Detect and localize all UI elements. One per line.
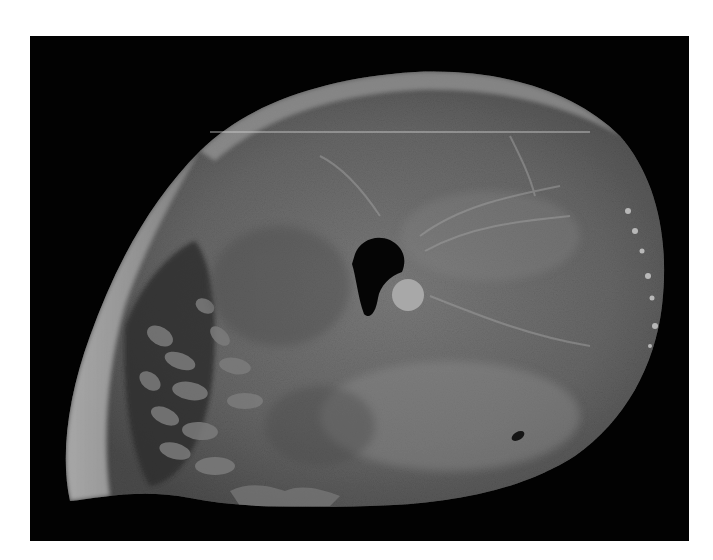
myocardium-dark-patch: [210, 226, 350, 346]
heart-cross-section-image: [30, 36, 689, 541]
specimen-photo: [30, 36, 689, 541]
papillary-muscle: [392, 279, 424, 311]
myocardium-light-patch: [400, 191, 580, 281]
myocardium-dark-patch: [265, 386, 375, 466]
